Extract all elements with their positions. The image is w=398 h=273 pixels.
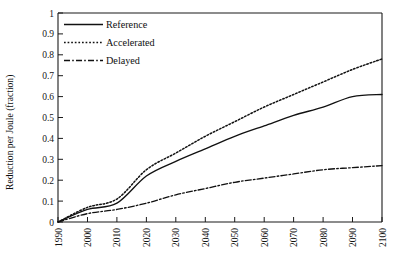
legend-item-reference[interactable]: Reference [64,19,148,30]
y-tick-label: 0.8 [42,50,54,60]
legend-label: Reference [106,19,148,30]
x-tick-label: 2070 [289,228,299,247]
x-axis-ticks [58,217,382,222]
y-tick-label: 0 [49,218,54,228]
y-axis-title: Reduction per Joule (fraction) [4,75,16,190]
series-group [58,59,382,222]
series-line-delayed [58,166,382,222]
x-tick-label: 2100 [378,228,388,247]
y-tick-label: 0.9 [42,29,54,39]
x-tick-label: 2010 [112,228,122,247]
y-axis-tick-labels: 1 0.9 0.8 0.7 0.6 0.5 0.4 0.3 0.2 0.1 0 [42,9,54,228]
x-axis-tick-labels: 1990 2000 2010 2020 2030 2040 2050 2060 … [54,228,388,247]
y-tick-label: 0.4 [42,134,54,144]
y-tick-label: 0.7 [42,71,54,81]
legend-item-delayed[interactable]: Delayed [64,55,140,66]
series-line-accelerated [58,59,382,222]
y-tick-label: 0.1 [42,197,54,207]
x-tick-label: 2080 [319,228,329,247]
y-tick-label: 0.2 [42,176,54,186]
legend-label: Delayed [106,55,140,66]
y-tick-label: 1 [49,9,54,19]
y-tick-label: 0.3 [42,155,54,165]
chart-figure: 1 0.9 0.8 0.7 0.6 0.5 0.4 0.3 0.2 0.1 0 [0,0,398,273]
x-tick-label: 2020 [142,228,152,247]
x-tick-label: 2000 [83,228,93,247]
x-tick-label: 2030 [171,228,181,247]
legend-label: Accelerated [106,37,155,48]
legend-item-accelerated[interactable]: Accelerated [64,37,155,48]
y-axis-ticks [58,13,63,222]
x-tick-label: 1990 [54,228,64,247]
y-tick-label: 0.6 [42,92,54,102]
x-tick-label: 2040 [201,228,211,247]
y-tick-label: 0.5 [42,113,54,123]
chart-legend: Reference Accelerated Delayed [64,19,155,66]
x-tick-label: 2090 [348,228,358,247]
chart-canvas: 1 0.9 0.8 0.7 0.6 0.5 0.4 0.3 0.2 0.1 0 [0,0,398,273]
x-tick-label: 2050 [230,228,240,247]
x-tick-label: 2060 [260,228,270,247]
